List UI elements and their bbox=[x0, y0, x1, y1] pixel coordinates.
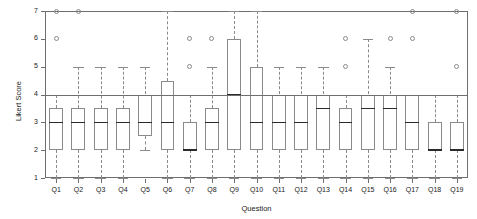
whisker-cap bbox=[95, 178, 105, 179]
x-axis-tick bbox=[346, 179, 347, 183]
whisker-line bbox=[457, 150, 458, 178]
median-line bbox=[405, 122, 419, 124]
x-axis-tick bbox=[101, 179, 102, 183]
whisker-line bbox=[346, 150, 347, 178]
median-line bbox=[116, 122, 130, 124]
x-axis-tick bbox=[368, 179, 369, 183]
median-line bbox=[250, 122, 264, 124]
x-axis-tick bbox=[435, 179, 436, 183]
median-line bbox=[161, 122, 175, 124]
box-rect bbox=[116, 108, 130, 150]
whisker-cap bbox=[229, 178, 239, 179]
x-axis-tick bbox=[279, 179, 280, 183]
whisker-cap bbox=[251, 11, 261, 12]
y-axis-tick bbox=[41, 150, 45, 151]
whisker-cap bbox=[51, 178, 61, 179]
y-axis-tick-label: 2 bbox=[25, 146, 38, 153]
box-rect bbox=[94, 108, 108, 150]
whisker-cap bbox=[385, 178, 395, 179]
whisker-line bbox=[101, 67, 102, 109]
whisker-line bbox=[78, 67, 79, 109]
x-axis-tick bbox=[323, 179, 324, 183]
x-axis-tick bbox=[212, 179, 213, 183]
y-axis-tick bbox=[41, 39, 45, 40]
whisker-cap bbox=[318, 67, 328, 68]
whisker-cap bbox=[318, 178, 328, 179]
whisker-line bbox=[234, 11, 235, 39]
whisker-line bbox=[167, 11, 168, 81]
y-axis-tick bbox=[41, 11, 45, 12]
x-axis-tick bbox=[234, 179, 235, 183]
box-rect bbox=[339, 108, 353, 150]
y-axis-tick bbox=[41, 178, 45, 179]
whisker-line bbox=[323, 67, 324, 95]
whisker-line bbox=[323, 150, 324, 178]
whisker-cap bbox=[363, 178, 373, 179]
x-axis-tick bbox=[257, 179, 258, 183]
whisker-line bbox=[101, 150, 102, 178]
box-rect bbox=[428, 122, 442, 150]
median-line bbox=[183, 149, 197, 151]
whisker-line bbox=[457, 95, 458, 123]
whisker-line bbox=[123, 67, 124, 109]
whisker-cap bbox=[385, 67, 395, 68]
whisker-cap bbox=[229, 11, 239, 12]
x-axis-tick bbox=[190, 179, 191, 183]
median-line bbox=[94, 122, 108, 124]
median-line bbox=[205, 122, 219, 124]
whisker-cap bbox=[296, 67, 306, 68]
outlier-point bbox=[76, 9, 81, 14]
outlier-point bbox=[410, 9, 415, 14]
median-line bbox=[138, 122, 152, 124]
whisker-cap bbox=[429, 178, 439, 179]
box-rect bbox=[383, 95, 397, 151]
whisker-cap bbox=[207, 178, 217, 179]
whisker-line bbox=[368, 150, 369, 178]
whisker-cap bbox=[340, 178, 350, 179]
whisker-line bbox=[301, 150, 302, 178]
median-line bbox=[450, 149, 464, 151]
whisker-line bbox=[257, 150, 258, 178]
whisker-line bbox=[145, 67, 146, 95]
x-axis-tick-label: Q19 bbox=[441, 186, 473, 193]
box-rect bbox=[183, 122, 197, 150]
box-rect bbox=[205, 108, 219, 150]
box-rect bbox=[316, 95, 330, 151]
median-line bbox=[339, 122, 353, 124]
reference-line bbox=[45, 95, 468, 96]
y-axis-tick-label: 4 bbox=[25, 90, 38, 97]
whisker-line bbox=[279, 67, 280, 95]
whisker-line bbox=[234, 150, 235, 178]
median-line bbox=[272, 122, 286, 124]
whisker-line bbox=[435, 150, 436, 178]
whisker-line bbox=[390, 150, 391, 178]
whisker-cap bbox=[95, 67, 105, 68]
whisker-line bbox=[145, 136, 146, 150]
whisker-cap bbox=[296, 178, 306, 179]
median-line bbox=[316, 108, 330, 110]
whisker-line bbox=[56, 95, 57, 109]
whisker-cap bbox=[118, 67, 128, 68]
whisker-line bbox=[390, 67, 391, 95]
y-axis-tick bbox=[41, 67, 45, 68]
outlier-point bbox=[454, 9, 459, 14]
whisker-line bbox=[412, 150, 413, 178]
box-rect bbox=[361, 95, 375, 151]
outlier-point bbox=[54, 9, 59, 14]
whisker-cap bbox=[162, 11, 172, 12]
whisker-line bbox=[212, 150, 213, 178]
whisker-cap bbox=[407, 178, 417, 179]
y-axis-tick-label: 3 bbox=[25, 118, 38, 125]
box-rect bbox=[49, 108, 63, 150]
whisker-cap bbox=[274, 178, 284, 179]
outlier-point bbox=[388, 36, 393, 41]
y-axis-tick bbox=[41, 122, 45, 123]
median-line bbox=[428, 149, 442, 151]
whisker-line bbox=[56, 150, 57, 178]
box-rect bbox=[138, 95, 152, 137]
whisker-cap bbox=[73, 178, 83, 179]
whisker-cap bbox=[73, 67, 83, 68]
box-rect bbox=[250, 67, 264, 151]
whisker-line bbox=[167, 150, 168, 178]
whisker-cap bbox=[162, 178, 172, 179]
